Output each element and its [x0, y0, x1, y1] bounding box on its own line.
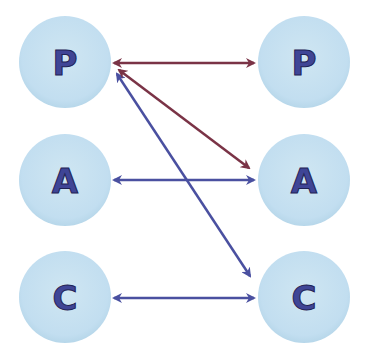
edge-p-to-c	[117, 74, 250, 276]
label-left-p: P	[53, 43, 78, 83]
label-left-a: A	[52, 161, 79, 201]
pac-diagram: P A C P A C	[0, 0, 372, 359]
label-right-a: A	[291, 161, 318, 201]
label-left-c: C	[53, 278, 78, 318]
edge-p-to-a	[119, 70, 249, 168]
label-right-p: P	[292, 43, 317, 83]
label-right-c: C	[292, 278, 317, 318]
